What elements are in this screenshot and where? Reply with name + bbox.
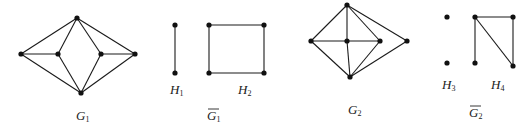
h3-vertex (444, 14, 449, 19)
h4-vertex (510, 14, 515, 19)
g2bar-label: G2 (469, 105, 482, 121)
g2-edge (347, 5, 407, 41)
g2-vertex (344, 38, 349, 43)
g1-label: G1 (76, 108, 89, 124)
h2-vertex (261, 22, 266, 27)
h2-vertex (261, 70, 266, 75)
g2-vertex (347, 74, 352, 79)
h3-vertex (444, 60, 449, 65)
g2-edge (311, 5, 347, 41)
h4-edge (475, 17, 513, 66)
g2-edge (347, 5, 380, 41)
g2-vertex (344, 2, 349, 7)
g1-edge (58, 54, 81, 93)
g1-vertex (74, 15, 79, 20)
g2-vertex (308, 38, 313, 43)
g1-vertex (78, 90, 83, 95)
g2-vertex (404, 38, 409, 43)
h2-label: H2 (237, 82, 251, 98)
g1-edge (21, 18, 77, 54)
h2-vertex (206, 22, 211, 27)
g2-edge (350, 41, 407, 77)
h2-vertex (206, 70, 211, 75)
h1-label: H1 (169, 82, 183, 98)
g2-vertex (377, 38, 382, 43)
g1-vertex (98, 51, 103, 56)
h4-vertex (510, 63, 515, 68)
g2-edge (347, 41, 350, 77)
h4-label: H4 (490, 77, 504, 93)
g1-edge (77, 18, 135, 54)
g1-vertex (132, 51, 137, 56)
h1-vertex (172, 70, 177, 75)
g1-vertex (55, 51, 60, 56)
g1-edge (77, 18, 101, 54)
h4-vertex (472, 14, 477, 19)
g2-edge (311, 41, 350, 77)
g1-vertex (18, 51, 23, 56)
h1-vertex (172, 22, 177, 27)
labels-layer: G1H1H2G1G2H3H4G2 (76, 77, 504, 124)
h3-label: H3 (441, 77, 455, 93)
edges-layer (21, 5, 513, 93)
g1-edge (81, 54, 101, 93)
g2-label: G2 (348, 102, 361, 118)
g2-edge (350, 41, 380, 77)
g1-edge (58, 18, 77, 54)
graph-diagram: G1H1H2G1G2H3H4G2 (0, 0, 528, 130)
h4-vertex (472, 60, 477, 65)
g1-edge (21, 54, 81, 93)
g1bar-label: G1 (207, 108, 220, 124)
g1-edge (81, 54, 135, 93)
